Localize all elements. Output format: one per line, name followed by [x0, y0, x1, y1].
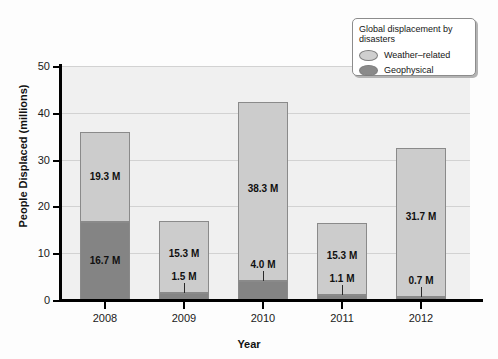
bar-2012-leader-line — [421, 287, 422, 297]
y-tick-mark-20 — [53, 206, 59, 208]
bar-2009-leader-line — [184, 283, 185, 293]
bar-2010-weather-segment[interactable]: 38.3 M — [238, 102, 288, 281]
x-tick-mark-2011 — [341, 302, 343, 309]
bar-2008-geophysical-segment[interactable]: 16.7 M — [80, 222, 130, 300]
bar-2011[interactable]: 15.3 M 1.1 M — [317, 223, 367, 300]
x-tick-mark-2009 — [183, 302, 185, 309]
bar-2012-weather-label: 31.7 M — [397, 211, 445, 222]
legend-title: Global displacement by disasters — [359, 24, 469, 44]
y-tick-mark-10 — [53, 253, 59, 255]
y-tick-mark-50 — [53, 66, 59, 68]
legend-item-geophysical[interactable]: Geophysical — [359, 63, 469, 77]
bar-2010-leader-line — [263, 271, 264, 281]
x-axis-title: Year — [0, 338, 498, 350]
legend-title-line-1: Global displacement by — [359, 24, 469, 34]
legend-title-line-2: disasters — [359, 34, 469, 44]
plot-area: 19.3 M 16.7 M 15.3 M 1.5 M 38.3 M 4.0 M — [62, 66, 470, 300]
x-tick-mark-2012 — [420, 302, 422, 309]
y-axis-title: People Displaced (millions) — [17, 56, 29, 256]
bar-2010-geophysical-segment[interactable] — [238, 281, 288, 300]
y-tick-label-0: 0 — [0, 294, 50, 306]
x-tick-label-2008: 2008 — [75, 312, 135, 324]
bar-2009-geophysical-label: 1.5 M — [159, 271, 209, 282]
bar-2009-weather-label: 15.3 M — [160, 248, 208, 259]
bar-2008[interactable]: 19.3 M 16.7 M — [80, 132, 130, 301]
y-axis-line — [59, 64, 62, 302]
y-tick-mark-30 — [53, 160, 59, 162]
legend-item-weather-related[interactable]: Weather–related — [359, 48, 469, 62]
bar-2010[interactable]: 38.3 M 4.0 M — [238, 102, 288, 300]
bar-2012-geophysical-label: 0.7 M — [396, 275, 446, 286]
bar-2010-geophysical-label: 4.0 M — [238, 259, 288, 270]
bar-2011-weather-label: 15.3 M — [318, 250, 366, 261]
bar-2011-geophysical-label: 1.1 M — [317, 273, 367, 284]
bar-2011-leader-line — [342, 285, 343, 295]
x-tick-label-2009: 2009 — [154, 312, 214, 324]
bar-2009[interactable]: 15.3 M 1.5 M — [159, 221, 209, 300]
bar-2008-weather-segment[interactable]: 19.3 M — [80, 132, 130, 222]
x-tick-label-2010: 2010 — [233, 312, 293, 324]
y-tick-mark-0 — [53, 300, 59, 302]
legend-swatch-geophysical-icon — [359, 65, 378, 76]
legend[interactable]: Global displacement by disasters Weather… — [352, 18, 476, 76]
x-tick-label-2011: 2011 — [312, 312, 372, 324]
legend-swatch-weather-icon — [359, 50, 378, 61]
bar-2012[interactable]: 31.7 M 0.7 M — [396, 148, 446, 300]
bar-2008-weather-label: 19.3 M — [81, 171, 129, 182]
chart-canvas: 19.3 M 16.7 M 15.3 M 1.5 M 38.3 M 4.0 M — [0, 0, 498, 359]
x-tick-mark-2008 — [104, 302, 106, 309]
legend-label-weather-related: Weather–related — [384, 50, 450, 60]
x-tick-label-2012: 2012 — [391, 312, 451, 324]
bar-2008-geophysical-label: 16.7 M — [81, 255, 129, 266]
x-tick-mark-2010 — [262, 302, 264, 309]
legend-label-geophysical: Geophysical — [384, 65, 434, 75]
y-tick-mark-40 — [53, 113, 59, 115]
bar-2010-weather-label: 38.3 M — [239, 183, 287, 194]
